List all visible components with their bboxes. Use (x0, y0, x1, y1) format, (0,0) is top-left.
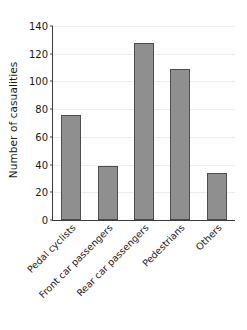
y-tick-label: 60 (35, 131, 48, 142)
y-tick-label: 0 (42, 215, 48, 226)
y-axis-tick-labels: 020406080100120140 (22, 26, 48, 220)
y-tick-label: 100 (29, 76, 48, 87)
bar (170, 69, 190, 220)
bar-series (53, 26, 235, 220)
x-axis-tick-labels: Pedal cyclistsFront car passengersRear c… (52, 222, 234, 322)
y-axis-title: Number of casualities (4, 25, 22, 215)
y-tick-label: 120 (29, 48, 48, 59)
bar-chart-figure: Number of casualities 020406080100120140… (0, 0, 247, 330)
y-tick-label: 20 (35, 187, 48, 198)
x-tick-label: Others (193, 222, 223, 252)
bar (98, 166, 118, 220)
y-tick-label: 140 (29, 21, 48, 32)
y-tick-label: 80 (35, 104, 48, 115)
bar (134, 43, 154, 220)
y-tick-label: 40 (35, 159, 48, 170)
bar (207, 173, 227, 220)
bar (61, 115, 81, 220)
plot-area (52, 26, 235, 221)
